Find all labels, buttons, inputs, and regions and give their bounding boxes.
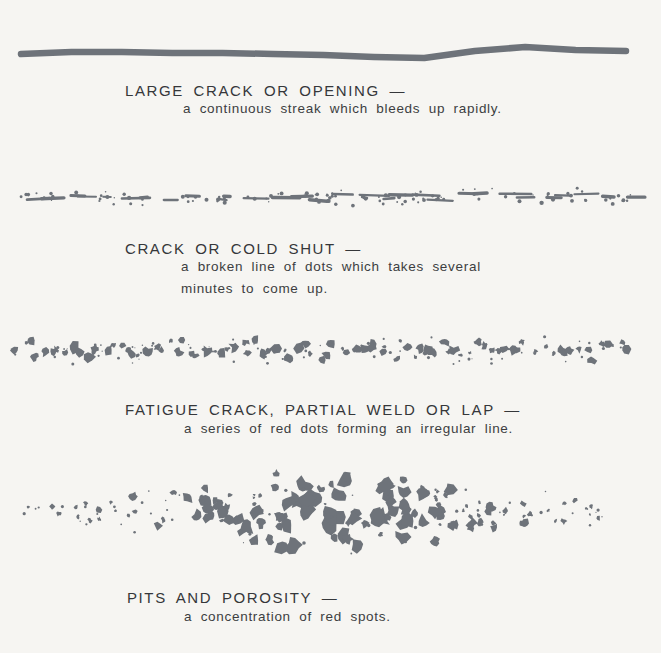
section-title-fatigue-crack: FATIGUE CRACK, PARTIAL WELD OR LAP —	[125, 401, 521, 418]
section-title-large-crack: LARGE CRACK OR OPENING —	[125, 82, 406, 99]
section-desc-fatigue-crack: a series of red dots forming an irregula…	[184, 421, 513, 436]
continuous-streak-graphic	[0, 30, 661, 76]
penetrant-indication-figure: LARGE CRACK OR OPENING — a continuous st…	[0, 0, 661, 653]
porosity-cluster-graphic	[0, 438, 661, 583]
section-desc-pits-porosity: a concentration of red spots.	[184, 609, 391, 624]
section-desc-large-crack: a continuous streak which bleeds up rapi…	[183, 101, 502, 116]
irregular-dot-line-graphic	[0, 320, 661, 382]
section-title-crack-cold-shut: CRACK OR COLD SHUT —	[125, 240, 362, 257]
section-desc-crack-cold-shut-line2: minutes to come up.	[181, 281, 328, 296]
section-desc-crack-cold-shut-line1: a broken line of dots which takes severa…	[181, 259, 481, 274]
broken-dotted-line-graphic	[0, 172, 661, 224]
section-title-pits-porosity: PITS AND POROSITY —	[127, 589, 338, 606]
